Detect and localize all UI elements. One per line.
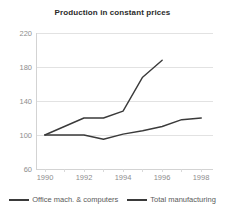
y-tick-label-180: 180 xyxy=(2,63,32,72)
x-tick-mark-1994 xyxy=(123,169,124,172)
gridline-100 xyxy=(37,135,213,136)
legend-swatch-icon xyxy=(127,199,147,201)
gridline-180 xyxy=(37,67,213,68)
x-tick-mark-1995 xyxy=(142,169,143,172)
x-tick-mark-1990 xyxy=(45,169,46,172)
legend-swatch-icon xyxy=(9,199,29,201)
x-tick-label-1994: 1994 xyxy=(105,173,141,182)
y-tick-label-220: 220 xyxy=(2,29,32,38)
x-tick-mark-1997 xyxy=(181,169,182,172)
gridline-220 xyxy=(37,33,213,34)
y-axis-line xyxy=(36,33,37,170)
legend-item-total-manufacturing: Total manufacturing xyxy=(127,195,215,204)
plot-area xyxy=(37,33,213,169)
x-tick-label-1998: 1998 xyxy=(183,173,219,182)
x-tick-mark-1992 xyxy=(84,169,85,172)
x-tick-label-1996: 1996 xyxy=(144,173,180,182)
x-tick-mark-1998 xyxy=(201,169,202,172)
y-tick-label-140: 140 xyxy=(2,97,32,106)
x-tick-label-1990: 1990 xyxy=(27,173,63,182)
x-tick-mark-1991 xyxy=(64,169,65,172)
y-tick-label-100: 100 xyxy=(2,131,32,140)
x-tick-mark-1996 xyxy=(162,169,163,172)
gridline-140 xyxy=(37,101,213,102)
x-tick-mark-1993 xyxy=(103,169,104,172)
legend-item-office-mach-computers: Office mach. & computers xyxy=(9,195,118,204)
legend-label-office-mach-computers: Office mach. & computers xyxy=(32,195,118,204)
line-chart: Production in constant prices 220 180 14… xyxy=(0,0,225,212)
legend-label-total-manufacturing: Total manufacturing xyxy=(150,195,215,204)
chart-legend: Office mach. & computers Total manufactu… xyxy=(0,195,225,204)
x-tick-label-1992: 1992 xyxy=(66,173,102,182)
chart-title: Production in constant prices xyxy=(0,8,225,17)
